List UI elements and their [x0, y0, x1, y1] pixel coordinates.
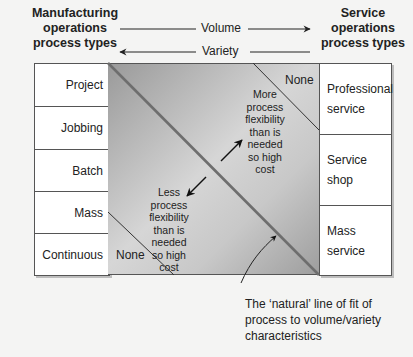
caption-line: characteristics — [245, 328, 413, 344]
upper-note-line: than is — [235, 126, 295, 139]
upper-note-line: so high — [235, 151, 295, 164]
lower-note-line: process — [139, 199, 199, 212]
lower-note-line: so high — [139, 249, 199, 262]
lower-note-line: than is — [139, 224, 199, 237]
upper-note-line: More — [235, 88, 295, 101]
top-right-none-label: None — [285, 73, 314, 87]
upper-note-line: flexibility — [235, 113, 295, 126]
less-flexibility-note: Less process flexibility than is needed … — [139, 186, 199, 274]
caption-line: The ‘natural’ line of fit of — [245, 296, 413, 312]
upper-note-line: process — [235, 101, 295, 114]
natural-line-caption: The ‘natural’ line of fit of process to … — [245, 296, 413, 344]
caption-pointer-arrow — [241, 236, 276, 283]
lower-note-line: Less — [139, 186, 199, 199]
upper-note-line: cost — [235, 163, 295, 176]
lower-note-line: needed — [139, 236, 199, 249]
lower-note-line: cost — [139, 261, 199, 274]
more-flexibility-note: More process flexibility than is needed … — [235, 88, 295, 176]
caption-line: process to volume/variety — [245, 312, 413, 328]
upper-note-line: needed — [235, 138, 295, 151]
lower-note-line: flexibility — [139, 211, 199, 224]
